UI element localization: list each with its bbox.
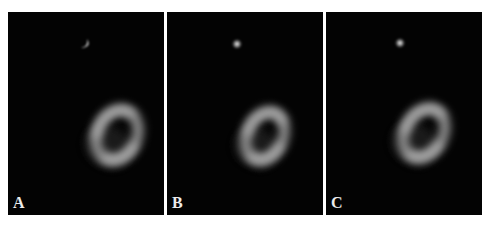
- scintigraphy-figure: A B C: [0, 0, 494, 227]
- panel-label: B: [172, 195, 183, 211]
- myocardium-ring: [228, 103, 292, 174]
- hot-spot: [81, 39, 89, 48]
- panel-label: C: [331, 195, 343, 211]
- heart-scan-image: [326, 12, 482, 215]
- myocardium-ring: [78, 100, 147, 175]
- panel-label: A: [13, 195, 25, 211]
- myocardium-ring: [384, 97, 454, 172]
- hot-spot: [232, 39, 242, 49]
- heart-scan-image: [167, 12, 323, 215]
- heart-scan-image: [8, 12, 164, 215]
- panel-b: B: [167, 12, 323, 215]
- panel-c: C: [326, 12, 482, 215]
- panel-a: A: [8, 12, 164, 215]
- hot-spot: [395, 38, 405, 48]
